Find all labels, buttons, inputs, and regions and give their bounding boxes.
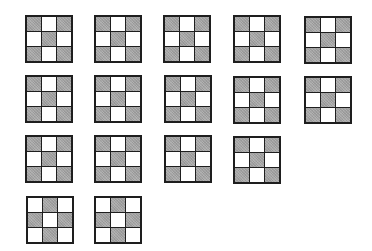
shaded-cell [111,152,125,166]
shaded-cell [111,228,125,242]
empty-cell [27,92,41,106]
empty-cell [27,152,41,166]
shaded-cell [27,47,41,61]
empty-cell [57,92,71,106]
empty-cell [180,17,194,31]
empty-cell [321,48,335,62]
shaded-cell [111,32,125,46]
empty-cell [111,77,125,91]
pattern-grid-r1-c3 [163,15,211,63]
pattern-grid-r2-c3 [164,75,212,123]
shaded-cell [250,32,264,46]
empty-cell [42,47,56,61]
empty-cell [126,32,140,46]
empty-cell [181,137,195,151]
shaded-cell [96,77,110,91]
shaded-cell [235,47,249,61]
shaded-cell [196,107,210,121]
empty-cell [181,77,195,91]
empty-cell [96,32,110,46]
shaded-cell [235,108,249,122]
shaded-cell [196,137,210,151]
pattern-grid-r1-c1 [25,15,73,63]
empty-cell [42,167,56,181]
empty-cell [235,93,249,107]
shaded-cell [57,17,71,31]
shaded-cell [181,92,195,106]
shaded-cell [166,137,180,151]
shaded-cell [42,32,56,46]
pattern-grid-r4-c1 [26,196,74,244]
shaded-cell [96,47,110,61]
shaded-cell [96,213,110,227]
empty-cell [165,32,179,46]
shaded-cell [195,17,209,31]
shaded-cell [166,107,180,121]
empty-cell [265,32,279,46]
empty-cell [250,78,264,92]
shaded-cell [57,167,71,181]
shaded-cell [96,137,110,151]
shaded-cell [42,92,56,106]
empty-cell [57,152,71,166]
empty-cell [250,138,264,152]
shaded-cell [250,153,264,167]
shaded-cell [306,48,320,62]
shaded-cell [336,18,350,32]
shaded-cell [196,167,210,181]
empty-cell [42,137,56,151]
shaded-cell [27,107,41,121]
pattern-grid-r3-c1 [25,135,73,183]
empty-cell [58,228,72,242]
shaded-cell [250,93,264,107]
empty-cell [166,92,180,106]
pattern-grid-r2-c1 [25,75,73,123]
shaded-cell [265,17,279,31]
shaded-cell [42,152,56,166]
shaded-cell [27,77,41,91]
empty-cell [57,32,71,46]
shaded-cell [165,47,179,61]
empty-cell [235,153,249,167]
shaded-cell [265,47,279,61]
shaded-cell [265,138,279,152]
shaded-cell [306,18,320,32]
shaded-cell [96,17,110,31]
empty-cell [195,32,209,46]
shaded-cell [180,32,194,46]
empty-cell [321,18,335,32]
empty-cell [265,153,279,167]
empty-cell [321,108,335,122]
shaded-cell [321,93,335,107]
shaded-cell [336,78,350,92]
empty-cell [196,92,210,106]
shaded-cell [28,213,42,227]
shaded-cell [27,17,41,31]
shaded-cell [126,47,140,61]
pattern-grid-r4-c2 [94,196,142,244]
empty-cell [96,92,110,106]
empty-cell [126,92,140,106]
shaded-cell [126,77,140,91]
pattern-grid-r3-c4 [233,136,281,184]
empty-cell [42,17,56,31]
pattern-grid-r3-c2 [94,135,142,183]
shaded-cell [181,152,195,166]
shaded-cell [235,138,249,152]
empty-cell [126,228,140,242]
shaded-cell [27,167,41,181]
empty-cell [336,33,350,47]
shaded-cell [336,48,350,62]
empty-cell [166,152,180,166]
shaded-cell [43,228,57,242]
empty-cell [126,152,140,166]
empty-cell [42,107,56,121]
empty-cell [111,137,125,151]
shaded-cell [235,168,249,182]
empty-cell [235,32,249,46]
shaded-cell [43,198,57,212]
shaded-cell [306,78,320,92]
empty-cell [321,78,335,92]
empty-cell [181,167,195,181]
shaded-cell [321,33,335,47]
